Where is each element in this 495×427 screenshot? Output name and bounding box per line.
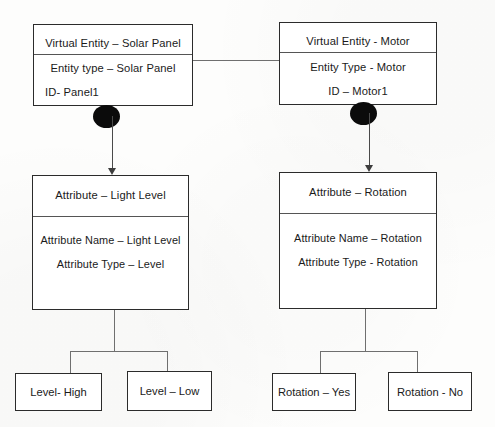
arrowhead-solar-attribute [108, 168, 116, 175]
attribute-light-header: Attribute – Light Level [33, 189, 188, 201]
attribute-light-type: Attribute Type – Level [33, 258, 188, 270]
value-level-high-label: Level- High [16, 386, 101, 398]
entity-solar-id: ID- Panel1 [34, 86, 192, 98]
attribute-light-divider [33, 216, 188, 217]
attribute-light-name: Attribute Name – Light Level [33, 234, 188, 246]
entity-motor-id: ID – Motor1 [280, 85, 436, 97]
entity-motor-divider [280, 52, 436, 53]
attribute-box-light-level[interactable]: Attribute – Light Level Attribute Name –… [32, 175, 189, 310]
value-level-low-label: Level – Low [128, 385, 211, 397]
attribute-box-rotation[interactable]: Attribute – Rotation Attribute Name – Ro… [279, 172, 437, 309]
edge-rotation-fork-bar [320, 351, 418, 352]
entity-box-solar-panel[interactable]: Virtual Entity – Solar Panel Entity type… [33, 24, 193, 106]
edge-rotation-to-yes [320, 351, 321, 373]
edge-light-to-low [167, 351, 168, 373]
attribute-rotation-type: Attribute Type - Rotation [280, 256, 436, 268]
value-box-rotation-no[interactable]: Rotation - No [388, 372, 472, 411]
value-rotation-no-label: Rotation - No [389, 386, 471, 398]
edge-rotation-stem [365, 309, 366, 352]
diagram-canvas: Virtual Entity – Solar Panel Entity type… [0, 0, 495, 427]
value-box-rotation-yes[interactable]: Rotation – Yes [272, 373, 356, 411]
edge-solar-entity-to-attribute [112, 116, 113, 169]
edge-rotation-to-no [417, 351, 418, 373]
attribute-rotation-name: Attribute Name – Rotation [280, 232, 436, 244]
edge-light-to-high [70, 351, 71, 373]
entity-solar-header: Virtual Entity – Solar Panel [34, 37, 192, 49]
composition-bullet-solar [93, 105, 120, 128]
composition-bullet-motor [350, 102, 377, 125]
arrowhead-motor-attribute [365, 165, 373, 172]
value-box-level-high[interactable]: Level- High [15, 373, 102, 411]
edge-light-stem [114, 310, 115, 352]
entity-association-line [193, 60, 279, 61]
entity-solar-type: Entity type – Solar Panel [34, 62, 192, 74]
entity-motor-header: Virtual Entity - Motor [280, 35, 436, 47]
entity-box-motor[interactable]: Virtual Entity - Motor Entity Type - Mot… [279, 22, 437, 105]
value-box-level-low[interactable]: Level – Low [127, 371, 212, 411]
attribute-rotation-divider [280, 213, 436, 214]
value-rotation-yes-label: Rotation – Yes [273, 386, 355, 398]
entity-motor-type: Entity Type - Motor [280, 61, 436, 73]
attribute-rotation-header: Attribute – Rotation [280, 186, 436, 198]
entity-solar-divider [34, 54, 192, 55]
edge-motor-entity-to-attribute [369, 113, 370, 166]
edge-light-fork-bar [70, 351, 168, 352]
